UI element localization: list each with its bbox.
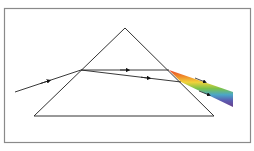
prism-dispersion-diagram [0, 0, 254, 151]
